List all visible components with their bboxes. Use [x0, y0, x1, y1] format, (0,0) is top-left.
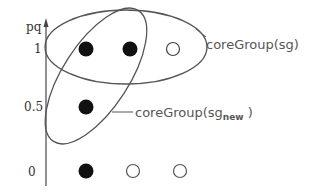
- filled-point: [123, 42, 138, 57]
- core-group-sg-new-main: coreGroup(sg: [135, 105, 223, 120]
- core-group-sg-new-label: coreGroup(sgnew ): [135, 105, 253, 122]
- filled-point: [79, 100, 94, 115]
- hollow-point: [167, 43, 180, 56]
- core-group-sg-new-subscript: new: [223, 112, 244, 122]
- core-group-sg-label: coreGroup(sg): [206, 37, 299, 52]
- hollow-point: [174, 165, 187, 178]
- tick-label-0: 0: [28, 165, 36, 179]
- filled-point: [79, 164, 94, 179]
- y-axis-label: pq: [26, 20, 42, 34]
- filled-point: [79, 42, 94, 57]
- tick-label-1: 1: [34, 42, 42, 56]
- y-axis-arrow-icon: [44, 18, 49, 27]
- hollow-point: [127, 165, 140, 178]
- core-group-sg-leader: [196, 29, 206, 37]
- tick-label-0-5: 0.5: [24, 100, 43, 114]
- core-group-sg-new-close: ): [244, 105, 253, 120]
- diagram-canvas: pq 1 0.5 0 coreGroup(sg) coreGroup(sgnew…: [0, 0, 331, 196]
- core-group-diagram: pq 1 0.5 0 coreGroup(sg) coreGroup(sgnew…: [0, 0, 331, 196]
